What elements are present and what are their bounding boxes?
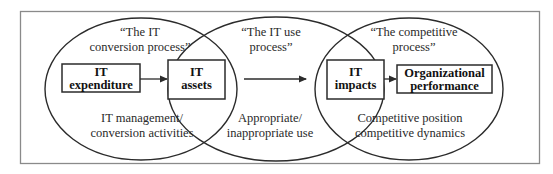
use-process-footer-line-1: Appropriate/: [238, 111, 302, 125]
competitive-process-footer-line-2: competitive dynamics: [355, 126, 465, 140]
it-impacts-label-line-1: IT: [349, 65, 363, 79]
diagram-canvas: “The IT conversion process” IT expenditu…: [0, 0, 553, 174]
use-process-title-line-1: “The IT use: [241, 25, 301, 39]
competitive-process-title-line-2: process”: [392, 40, 435, 54]
conversion-process-footer-line-2: conversion activities: [90, 126, 193, 140]
it-expenditure-label-line-1: IT: [94, 65, 108, 79]
it-impacts-label-line-2: impacts: [335, 78, 377, 92]
use-process-title-line-2: process”: [249, 40, 292, 54]
conversion-process-footer-line-1: IT management/: [101, 111, 184, 125]
it-assets-label-line-2: assets: [181, 78, 212, 92]
it-assets-label-line-1: IT: [190, 65, 204, 79]
competitive-process-footer-line-1: Competitive position: [357, 111, 463, 125]
it-expenditure-label-line-2: expenditure: [69, 78, 133, 92]
organizational-performance-label-line-2: performance: [410, 79, 479, 93]
organizational-performance-label-line-1: Organizational: [404, 66, 485, 80]
conversion-process-title-line-1: “The IT: [120, 25, 160, 39]
use-process-footer-line-2: inappropriate use: [227, 126, 314, 140]
conversion-process-title-line-2: conversion process”: [89, 40, 190, 54]
competitive-process-title-line-1: “The competitive: [370, 25, 458, 39]
